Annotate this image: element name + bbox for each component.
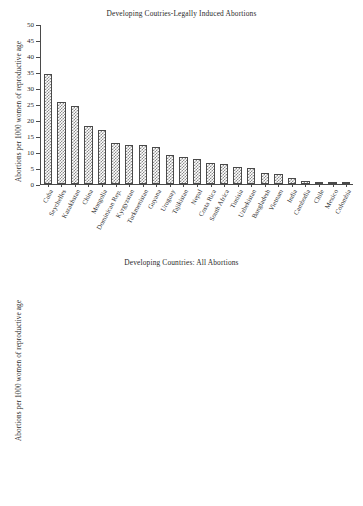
x-tick-mark <box>61 184 62 187</box>
y-tick-label: 15 <box>27 133 34 141</box>
y-tick-mark <box>36 105 40 106</box>
x-label-slot: Chile <box>312 188 326 250</box>
bar-slot <box>109 25 123 184</box>
bar-slot <box>150 25 164 184</box>
y-axis-label-top: Abortions per 1000 women of reproductive… <box>15 41 23 182</box>
y-tick-label: 20 <box>27 117 34 125</box>
y-tick-label: 40 <box>27 53 34 61</box>
y-tick-label: 50 <box>27 21 34 29</box>
y-tick-label: 25 <box>27 101 34 109</box>
x-tick-mark <box>129 184 130 187</box>
bar-uzbekistan <box>247 168 255 184</box>
chart-title-bottom: Developing Countries: All Abortions <box>0 258 363 267</box>
x-tick-mark <box>48 184 49 187</box>
y-tick-mark <box>36 25 40 26</box>
x-tick-mark <box>333 184 334 187</box>
bar-cuba <box>44 74 52 184</box>
y-tick-label: 35 <box>27 69 34 77</box>
bar-bangladesh <box>261 173 269 184</box>
bar-slot <box>231 25 245 184</box>
bar-slot <box>41 25 55 184</box>
bar-slot <box>339 25 353 184</box>
bar-slot <box>285 25 299 184</box>
bar-slot <box>312 25 326 184</box>
y-tick-mark <box>36 185 40 186</box>
x-label-slot: Bangladesh <box>258 188 272 250</box>
x-axis-tick-label: Nepal <box>189 188 203 206</box>
x-tick-mark <box>197 184 198 187</box>
y-tick-label: 5 <box>31 165 35 173</box>
bar-slot <box>258 25 272 184</box>
x-label-slot: Cambodia <box>299 188 313 250</box>
x-label-slot: Colombia <box>339 188 353 250</box>
bar-slot <box>204 25 218 184</box>
bar-south-africa <box>220 164 228 184</box>
x-tick-mark <box>88 184 89 187</box>
x-label-slot: Kazakhstan <box>68 188 82 250</box>
bar-tunisia <box>233 167 241 184</box>
bar-tajikistan <box>179 157 187 184</box>
x-label-slot: Vietnam <box>272 188 286 250</box>
bar-uruguay <box>166 155 174 184</box>
bar-turkmenistan <box>139 145 147 184</box>
x-tick-mark <box>170 184 171 187</box>
x-tick-mark <box>238 184 239 187</box>
bar-slot <box>68 25 82 184</box>
x-label-slot: South Africa <box>217 188 231 250</box>
bar-series-top <box>41 25 353 184</box>
bar-slot <box>136 25 150 184</box>
chart-panel-legally-induced-abortions: Developing Coutries-Legally Induced Abor… <box>0 0 363 253</box>
x-tick-mark <box>102 184 103 187</box>
x-tick-mark <box>75 184 76 187</box>
x-axis-tick-label: India <box>285 188 298 204</box>
x-tick-mark <box>224 184 225 187</box>
x-tick-mark <box>251 184 252 187</box>
x-tick-mark <box>211 184 212 187</box>
bar-slot <box>163 25 177 184</box>
chart-panel-all-abortions: Developing Countries: All Abortions Abor… <box>0 253 363 506</box>
x-axis-labels-top: CubaSeychellesKazakhstanChinaMongoliaDom… <box>41 188 353 250</box>
figure-page: Developing Coutries-Legally Induced Abor… <box>0 0 363 506</box>
bar-slot <box>272 25 286 184</box>
plot-area-top: 05101520253035404550 <box>40 25 353 185</box>
x-label-slot: Tunisia <box>231 188 245 250</box>
bar-slot <box>217 25 231 184</box>
x-label-slot: Cuba <box>41 188 55 250</box>
x-label-slot: India <box>285 188 299 250</box>
x-tick-mark <box>183 184 184 187</box>
x-tick-mark <box>319 184 320 187</box>
x-label-slot: Guyana <box>150 188 164 250</box>
y-tick-mark <box>36 57 40 58</box>
bar-slot <box>244 25 258 184</box>
y-tick-mark <box>36 73 40 74</box>
y-tick-mark <box>36 153 40 154</box>
bar-mongolia <box>98 130 106 184</box>
bar-slot <box>82 25 96 184</box>
bar-slot <box>299 25 313 184</box>
y-tick-mark <box>36 169 40 170</box>
bar-kyrgyzstan <box>125 145 133 184</box>
x-label-slot: Mexico <box>326 188 340 250</box>
x-label-slot: China <box>82 188 96 250</box>
x-label-slot: Tajikistan <box>177 188 191 250</box>
x-label-slot: Uruguay <box>163 188 177 250</box>
bar-dominican-rep <box>111 143 119 184</box>
bar-slot <box>95 25 109 184</box>
y-tick-mark <box>36 121 40 122</box>
bar-kazakhstan <box>71 106 79 184</box>
chart-title-top: Developing Coutries-Legally Induced Abor… <box>0 9 363 18</box>
x-tick-mark <box>278 184 279 187</box>
y-axis-label-bottom: Abortions per 1000 women of reproductive… <box>15 300 23 441</box>
x-axis-tick-label: Chile <box>312 188 325 204</box>
y-tick-mark <box>36 137 40 138</box>
y-tick-mark <box>36 89 40 90</box>
x-tick-mark <box>346 184 347 187</box>
bar-slot <box>55 25 69 184</box>
x-label-slot: Turkmenistan <box>136 188 150 250</box>
bar-china <box>84 126 92 185</box>
bar-vietnam <box>274 174 282 184</box>
y-tick-label: 30 <box>27 85 34 93</box>
y-tick-label: 0 <box>31 181 35 189</box>
y-tick-label: 10 <box>27 149 34 157</box>
bar-slot <box>122 25 136 184</box>
